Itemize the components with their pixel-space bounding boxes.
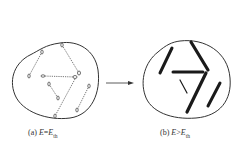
caption-a-threshold-sub: th xyxy=(53,133,57,139)
panel-b-boundary xyxy=(143,41,230,119)
panel-a-track-ends xyxy=(28,43,90,118)
caption-a-prefix: (a) xyxy=(28,128,39,137)
panel-b-tracks xyxy=(160,42,220,112)
caption-b-threshold-sub: th xyxy=(186,133,190,139)
caption-a: (a) E=Eth xyxy=(28,128,57,139)
right-arrow-icon xyxy=(106,81,134,85)
panel-a-boundary xyxy=(12,42,98,118)
caption-b: (b) E>Eth xyxy=(160,128,190,139)
panel-a-tracks xyxy=(29,45,89,116)
caption-b-prefix: (b) xyxy=(160,128,171,137)
